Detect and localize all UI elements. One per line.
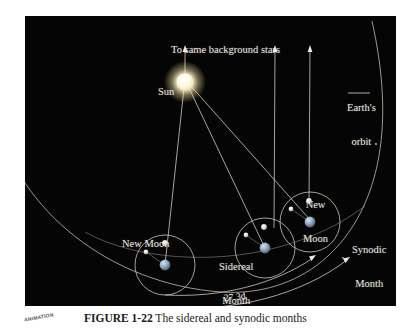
sun-ray-to-earth-3 <box>190 85 312 222</box>
orbit-tick-marks <box>342 143 377 259</box>
sun-to-earth-rays <box>165 85 312 265</box>
earth-moon-connectors <box>146 209 310 265</box>
moon-3 <box>306 198 312 204</box>
star-ray-3 <box>308 45 313 203</box>
earths-orbit-arc <box>25 21 383 292</box>
animation-badge: ANIMATION <box>24 312 54 323</box>
period-measurement-arcs <box>165 255 350 306</box>
earth-1 <box>160 260 171 271</box>
sun-ray-to-earth-2 <box>188 86 265 248</box>
moon-1 <box>162 240 168 246</box>
earth-2 <box>260 243 271 254</box>
moon-2b <box>244 233 249 238</box>
moon-2 <box>261 224 267 230</box>
earth-3 <box>305 217 316 228</box>
diagram-canvas <box>25 16 396 306</box>
moon-path-arc <box>85 206 365 257</box>
figure-caption-body: The sidereal and synodic months <box>153 312 307 324</box>
synodic-arc-29-5d <box>165 257 350 306</box>
earth-bodies <box>160 217 316 271</box>
caption-strip: ANIMATION FIGURE 1-22 The sidereal and s… <box>0 312 416 336</box>
figure-page: To same background stars Sun Earth's orb… <box>0 0 416 336</box>
sun-body <box>164 61 206 103</box>
moon-1b <box>144 250 149 255</box>
figure-number: FIGURE 1-22 <box>84 312 153 324</box>
star-ray-2 <box>273 45 278 228</box>
astronomy-figure-panel: To same background stars Sun Earth's orb… <box>25 16 396 306</box>
moon-3b <box>289 207 294 212</box>
sun-ray-to-earth-1 <box>165 88 184 265</box>
figure-caption: FIGURE 1-22 The sidereal and synodic mon… <box>84 312 307 324</box>
